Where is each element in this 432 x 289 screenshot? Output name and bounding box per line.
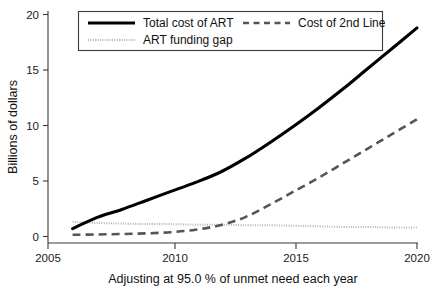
x-tick-label-2020: 2020 (404, 252, 430, 264)
y-tick-label-20: 20 (26, 9, 39, 21)
x-tick-label-2005: 2005 (35, 252, 61, 264)
series-cost-of-2nd-line (73, 119, 417, 235)
legend-label-second-line: Cost of 2nd Line (298, 16, 386, 30)
x-tick-label-2015: 2015 (283, 252, 309, 264)
chart-figure: 0 5 10 15 20 2005 2010 2015 2020 Billion… (0, 0, 432, 289)
x-tick-label-2010: 2010 (162, 252, 188, 264)
x-axis-ticks (48, 243, 417, 249)
y-tick-label-10: 10 (26, 120, 39, 132)
y-tick-label-15: 15 (26, 64, 39, 76)
y-tick-label-5: 5 (33, 175, 39, 187)
legend-label-total-cost: Total cost of ART (143, 16, 234, 30)
x-axis-title: Adjusting at 95.0 % of unmet need each y… (108, 272, 357, 286)
y-axis-title: Billions of dollars (6, 80, 20, 174)
series-total-cost-of-art (73, 28, 417, 229)
legend-label-funding-gap: ART funding gap (143, 33, 233, 47)
y-axis-ticks (43, 15, 48, 237)
series-art-funding-gap (73, 222, 417, 228)
chart-legend: Total cost of ART Cost of 2nd Line ART f… (79, 12, 386, 51)
y-tick-label-0: 0 (33, 231, 39, 243)
line-chart: 0 5 10 15 20 2005 2010 2015 2020 Billion… (0, 0, 432, 289)
